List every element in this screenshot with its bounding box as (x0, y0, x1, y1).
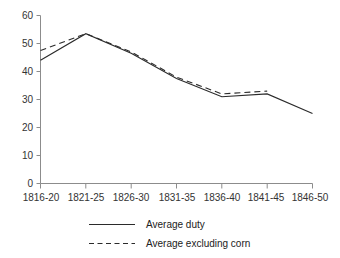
y-tick-marks (37, 16, 41, 184)
series-line-average-duty (41, 34, 313, 114)
legend-label-average-excluding-corn: Average excluding corn (146, 238, 250, 249)
y-tick-label-30: 30 (22, 94, 34, 105)
chart-canvas: 0 10 20 30 40 50 60 1816-20 1821-25 1826… (0, 0, 340, 258)
y-tick-label-20: 20 (22, 122, 34, 133)
x-tick-marks (41, 184, 313, 189)
x-tick-label-1826-30: 1826-30 (113, 192, 150, 203)
chart-legend: Average duty Average excluding corn (89, 219, 250, 249)
x-tick-label-1816-20: 1816-20 (23, 192, 60, 203)
x-tick-label-1836-40: 1836-40 (204, 192, 241, 203)
legend-label-average-duty: Average duty (146, 219, 205, 230)
line-chart: 0 10 20 30 40 50 60 1816-20 1821-25 1826… (0, 0, 340, 258)
y-tick-label-60: 60 (22, 10, 34, 21)
y-tick-label-50: 50 (22, 38, 34, 49)
y-tick-label-10: 10 (22, 150, 34, 161)
series-line-average-excluding-corn (41, 34, 268, 94)
x-tick-label-1846-50: 1846-50 (292, 192, 329, 203)
x-tick-label-1841-45: 1841-45 (248, 192, 285, 203)
x-tick-label-1831-35: 1831-35 (159, 192, 196, 203)
x-tick-label-1821-25: 1821-25 (68, 192, 105, 203)
y-tick-label-40: 40 (22, 66, 34, 77)
y-tick-label-0: 0 (27, 178, 33, 189)
